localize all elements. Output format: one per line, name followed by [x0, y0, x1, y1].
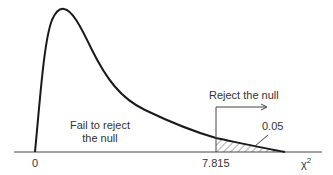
x-axis-label: χ2: [301, 156, 311, 170]
reject-region-label: Reject the null: [209, 89, 279, 102]
fail-label-line1: Fail to reject: [60, 119, 140, 132]
alpha-leader-line: [255, 135, 268, 146]
tick-label-zero: 0: [32, 157, 38, 170]
alpha-label: 0.05: [262, 120, 283, 133]
tick-label-critical: 7.815: [202, 157, 230, 170]
fail-region-label: Fail to reject the null: [60, 119, 140, 144]
chi-square-chart: [0, 0, 333, 175]
fail-label-line2: the null: [60, 132, 140, 145]
chi-superscript: 2: [307, 156, 311, 165]
